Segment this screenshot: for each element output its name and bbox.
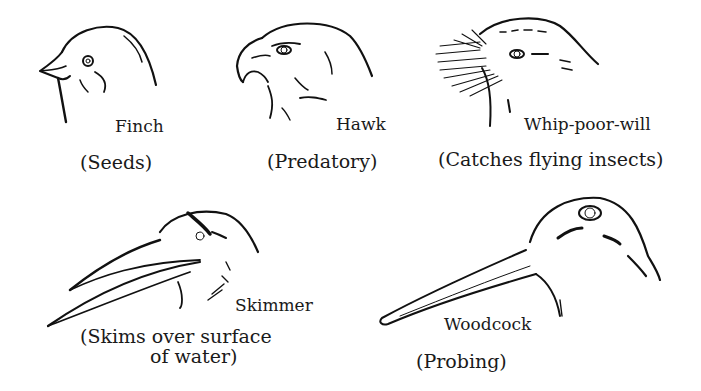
finch-head-illustration	[40, 27, 156, 122]
woodcock-head-illustration	[380, 198, 660, 325]
hawk-name-label: Hawk	[336, 116, 386, 133]
whip-poor-will-diet-label: (Catches flying insects)	[438, 150, 664, 169]
bird-beak-diagram: Finch (Seeds) Hawk (Predatory) Whip-poor…	[0, 0, 701, 391]
skimmer-name-label: Skimmer	[235, 297, 313, 314]
finch-diet-label: (Seeds)	[80, 153, 152, 172]
hawk-diet-label: (Predatory)	[267, 152, 377, 171]
whip-poor-will-name-label: Whip-poor-will	[524, 116, 651, 133]
finch-name-label: Finch	[115, 118, 164, 135]
woodcock-name-label: Woodcock	[444, 316, 531, 333]
woodcock-diet-label: (Probing)	[416, 352, 507, 371]
hawk-head-illustration	[237, 24, 372, 121]
skimmer-diet-label-line1: (Skims over surface	[80, 327, 272, 346]
skimmer-head-illustration	[48, 212, 258, 326]
whip-poor-will-head-illustration	[436, 18, 598, 126]
skimmer-diet-label-line2: of water)	[150, 347, 237, 366]
